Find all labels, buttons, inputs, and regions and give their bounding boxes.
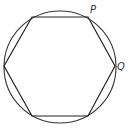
regular-hexagon — [4, 17, 115, 116]
hexagon-in-circle-diagram: P Q — [0, 0, 128, 130]
vertex-label-p: P — [90, 4, 97, 15]
vertex-label-q: Q — [117, 61, 125, 72]
circumscribed-circle — [4, 11, 116, 123]
